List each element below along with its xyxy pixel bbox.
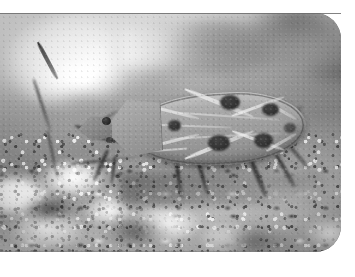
photograph-canvas <box>0 13 341 252</box>
wing-spot <box>284 123 296 133</box>
compound-eye-secondary-icon <box>106 137 113 143</box>
wing-spot <box>254 133 273 148</box>
wing-spot <box>262 103 279 116</box>
background-top-streak <box>120 25 341 67</box>
photo-frame <box>0 13 341 252</box>
photo-bottom-border <box>0 251 318 252</box>
page-root: Close-up grayscale photograph of a spott… <box>0 0 355 277</box>
soil-shadow-right <box>196 217 306 252</box>
wing-spot <box>168 120 181 131</box>
soil-shadow-center <box>92 209 188 252</box>
wing-spot <box>208 135 230 151</box>
photo-top-border <box>0 13 341 14</box>
insect-subject <box>78 87 303 183</box>
soil-shadow-left <box>10 189 88 229</box>
foreleg-one <box>92 149 109 182</box>
foreleg-two <box>110 155 118 185</box>
wing-spot <box>220 95 240 110</box>
